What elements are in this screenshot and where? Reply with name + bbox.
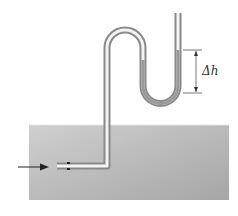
pitot-manometer-diagram <box>0 0 238 216</box>
delta-h-dimension <box>183 50 202 93</box>
inlet-mark-top <box>67 162 70 164</box>
delta-h-label: Δh <box>202 64 218 78</box>
inlet-mark-bottom <box>67 168 70 170</box>
